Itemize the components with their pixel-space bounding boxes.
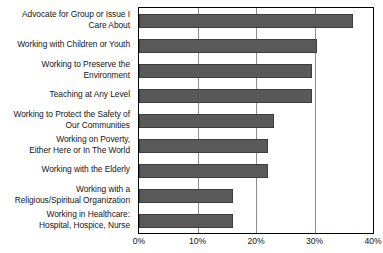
category-label-line: Hospital, Hospice, Nurse [39,220,130,230]
bar [139,89,312,103]
plot-inner [139,8,373,233]
category-label-line: Working with Children or Youth [17,39,130,49]
category-label-line: Environment [84,70,130,80]
bar-track [139,189,373,203]
category-label-line: Working with a [76,184,130,194]
bar-track [139,214,373,228]
category-label: Working with the Elderly [0,157,134,182]
category-axis: Advocate for Group or Issue ICare AboutW… [0,7,134,232]
category-label: Working with Children or Youth [0,32,134,57]
category-label-line: Working in Healthcare: [47,209,130,219]
axis-tick-label: 0% [133,236,145,247]
axis-tick-label: 40% [364,236,381,247]
axis-tick-label: 10% [189,236,206,247]
category-label-line: Either Here or In The World [29,145,130,155]
bar [139,189,233,203]
category-label-line: Working on Poverty, [56,134,130,144]
bar [139,139,268,153]
category-label: Teaching at Any Level [0,82,134,107]
bar-track [139,39,373,53]
bar-track [139,164,373,178]
category-label-line: Our Communities [66,120,130,130]
category-label: Working in Healthcare:Hospital, Hospice,… [0,207,134,232]
bar [139,214,233,228]
plot-area [138,7,374,234]
category-label-line: Religious/Spiritual Organization [15,195,130,205]
category-label-line: Working with the Elderly [42,164,130,174]
category-label-line: Working to Protect the Safety of [14,109,130,119]
bar-track [139,114,373,128]
bar-track [139,14,373,28]
category-label: Working with aReligious/Spiritual Organi… [0,182,134,207]
bar [139,14,353,28]
bar [139,164,268,178]
bar [139,64,312,78]
bar-track [139,64,373,78]
value-axis: 0%10%20%30%40% [138,236,374,250]
category-label: Advocate for Group or Issue ICare About [0,7,134,32]
category-label: Working to Preserve theEnvironment [0,57,134,82]
bar-track [139,89,373,103]
axis-tick-label: 30% [306,236,323,247]
category-label-line: Working to Preserve the [41,59,130,69]
bar [139,114,274,128]
bar-track [139,139,373,153]
category-label-line: Teaching at Any Level [50,89,130,99]
bar-chart: Advocate for Group or Issue ICare AboutW… [0,0,383,253]
category-label-line: Advocate for Group or Issue I [22,9,130,19]
axis-tick-label: 20% [247,236,264,247]
category-label: Working on Poverty,Either Here or In The… [0,132,134,157]
bar [139,39,317,53]
category-label-line: Care About [89,20,130,30]
category-label: Working to Protect the Safety ofOur Comm… [0,107,134,132]
